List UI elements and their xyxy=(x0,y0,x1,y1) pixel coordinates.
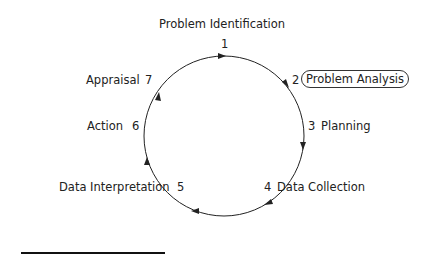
step-7-number: 7 xyxy=(145,73,152,87)
step-3-label: Planning xyxy=(321,119,371,133)
step-5-number: 5 xyxy=(177,180,184,194)
divider-rule xyxy=(21,252,165,254)
step-4-number: 4 xyxy=(264,180,271,194)
step-5-label: Data Interpretation xyxy=(59,180,170,194)
step-6-number: 6 xyxy=(132,119,139,133)
step-1-number: 1 xyxy=(221,37,228,51)
step-2-number: 2 xyxy=(292,73,299,87)
step-7-label: Appraisal xyxy=(86,73,140,87)
step-1-label: Problem Identification xyxy=(159,17,285,31)
step-4-label: Data Collection xyxy=(277,180,365,194)
step-3-number: 3 xyxy=(308,119,315,133)
step-2-label: Problem Analysis xyxy=(301,70,409,88)
step-6-label: Action xyxy=(87,119,123,133)
arrow-icon xyxy=(282,79,289,88)
arrow-icon xyxy=(300,142,306,150)
arrow-icon xyxy=(144,157,150,165)
arrow-icon xyxy=(218,53,226,59)
